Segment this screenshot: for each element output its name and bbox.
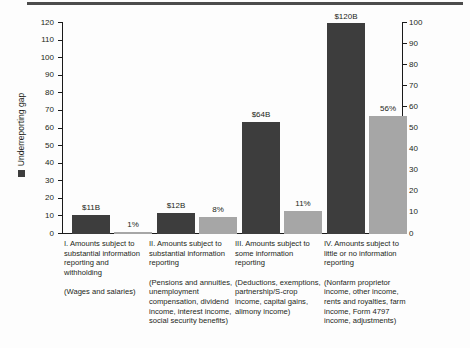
bar-group2-net-misreporting[interactable] — [199, 217, 237, 234]
bar-group4-net-misreporting[interactable] — [369, 116, 407, 234]
category-block-1: I. Amounts subject to substantial inform… — [64, 239, 147, 297]
y-ticklabel-right-100: 100 — [409, 19, 422, 27]
y-tick-right-80 — [403, 64, 407, 65]
y-ticklabel-left-10: 10 — [28, 212, 54, 220]
top-rule-divider — [27, 2, 463, 5]
y-ticklabel-left-110: 110 — [28, 36, 54, 44]
y-ticklabel-left-40: 40 — [28, 159, 54, 167]
category-subtitle-1: (Wages and salaries) — [64, 287, 147, 297]
bar-group1-net-misreporting[interactable] — [114, 232, 152, 234]
y-ticklabel-right-70: 70 — [409, 82, 418, 90]
category-subtitle-2: (Pensions and annuities, unemployment co… — [149, 278, 233, 326]
category-title-1: I. Amounts subject to substantial inform… — [64, 239, 147, 277]
bar-group3-net-misreporting[interactable] — [284, 211, 322, 234]
bar-label-group1-dark: $11B — [72, 203, 110, 212]
y-ticklabel-left-60: 60 — [28, 124, 54, 132]
category-title-2: II. Amounts subject to substantial infor… — [149, 239, 233, 268]
y-ticklabel-left-70: 70 — [28, 106, 54, 114]
y-ticklabel-right-80: 80 — [409, 61, 418, 69]
y-ticklabel-right-0: 0 — [409, 230, 413, 238]
category-title-3: III. Amounts subject to some information… — [235, 239, 321, 268]
bar-label-group3-dark: $64B — [242, 110, 280, 119]
bar-label-group1-light: 1% — [114, 220, 152, 229]
y-tick-right-100 — [403, 22, 407, 23]
legend-swatch-dark-icon — [18, 170, 25, 177]
y-ticklabel-right-10: 10 — [409, 208, 418, 216]
category-title-4: IV. Amounts subject to little or no info… — [324, 239, 410, 268]
bar-label-group3-light: 11% — [284, 199, 322, 208]
category-block-2: II. Amounts subject to substantial infor… — [149, 239, 233, 326]
y-ticklabel-left-90: 90 — [28, 71, 54, 79]
bar-label-group2-light: 8% — [199, 205, 237, 214]
y-ticklabel-right-40: 40 — [409, 145, 418, 153]
y-ticklabel-right-60: 60 — [409, 103, 418, 111]
y-ticklabel-left-100: 100 — [28, 54, 54, 62]
category-block-4: IV. Amounts subject to little or no info… — [324, 239, 410, 326]
plot-area: $11B 1% $12B 8% $64B 11% $120B 56% — [62, 22, 402, 234]
category-block-3: III. Amounts subject to some information… — [235, 239, 321, 316]
bar-group4-underreporting-gap[interactable] — [327, 23, 365, 234]
chart-figure: Underreporting gap Net misreporting perc… — [0, 0, 470, 348]
y-tick-right-90 — [403, 43, 407, 44]
y-ticklabel-left-80: 80 — [28, 89, 54, 97]
bar-group1-underreporting-gap[interactable] — [72, 215, 110, 234]
legend-underreporting-gap: Underreporting gap — [16, 73, 26, 197]
y-ticklabel-left-120: 120 — [28, 19, 54, 27]
bar-label-group2-dark: $12B — [157, 201, 195, 210]
y-ticklabel-right-90: 90 — [409, 40, 418, 48]
y-ticklabel-right-50: 50 — [409, 124, 418, 132]
y-ticklabel-left-50: 50 — [28, 142, 54, 150]
y-ticklabel-right-30: 30 — [409, 166, 418, 174]
y-ticklabel-right-20: 20 — [409, 187, 418, 195]
y-tick-right-70 — [403, 85, 407, 86]
bar-group2-underreporting-gap[interactable] — [157, 213, 195, 234]
y-ticklabel-left-30: 30 — [28, 177, 54, 185]
bar-label-group4-dark: $120B — [327, 12, 365, 21]
bar-label-group4-light: 56% — [369, 104, 407, 113]
y-ticklabel-left-0: 0 — [28, 230, 54, 238]
category-subtitle-4: (Nonfarm proprietor income, other income… — [324, 278, 410, 326]
y-ticklabel-left-20: 20 — [28, 194, 54, 202]
bar-group3-underreporting-gap[interactable] — [242, 122, 280, 235]
legend-label-underreporting-gap: Underreporting gap — [16, 93, 26, 166]
category-subtitle-3: (Deductions, exemptions, partnership/S-c… — [235, 278, 321, 316]
